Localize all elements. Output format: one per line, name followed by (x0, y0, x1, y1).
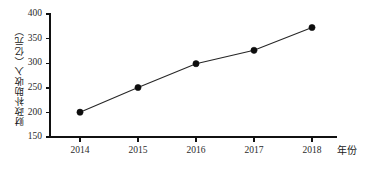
data-point-2015 (135, 84, 141, 90)
y-tick-label-250: 250 (28, 82, 43, 92)
x-tick-label-2016: 2016 (187, 145, 206, 155)
y-tick-label-150: 150 (28, 131, 43, 141)
data-point-2016 (193, 61, 199, 67)
y-tick-label-300: 300 (28, 57, 43, 67)
data-point-2017 (251, 47, 257, 53)
data-point-2018 (309, 24, 315, 30)
chart-plot-area: 400 350 300 250 200 150 2014 2015 2016 2… (0, 0, 369, 170)
y-tick-label-400: 400 (28, 8, 43, 18)
x-tick-label-2015: 2015 (129, 145, 148, 155)
x-axis-title: 年份 (337, 144, 357, 156)
x-tick-label-2014: 2014 (71, 145, 90, 155)
y-tick-label-350: 350 (28, 33, 43, 43)
y-tick-label-200: 200 (28, 107, 43, 117)
line-chart: 400 350 300 250 200 150 2014 2015 2016 2… (0, 0, 369, 170)
x-tick-label-2018: 2018 (303, 145, 322, 155)
series-line-financial-subsidy-income (80, 28, 312, 113)
x-tick-label-2017: 2017 (245, 145, 264, 155)
data-point-2014 (77, 109, 83, 115)
